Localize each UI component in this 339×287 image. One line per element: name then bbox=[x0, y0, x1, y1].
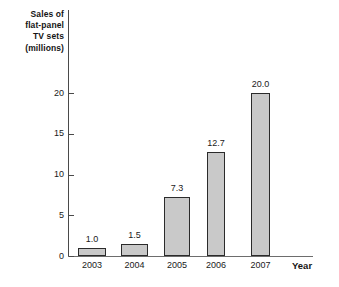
bar[interactable] bbox=[78, 248, 106, 256]
y-axis-tick-label: 20 bbox=[38, 89, 64, 98]
y-axis-title: Sales of flat-panel TV sets (millions) bbox=[2, 9, 64, 54]
y-axis-tick-label: 5 bbox=[38, 211, 64, 220]
y-axis-title-line-2: flat-panel bbox=[2, 20, 64, 31]
y-axis-title-line-4: (millions) bbox=[2, 43, 64, 54]
x-axis-tick-label: 2005 bbox=[154, 261, 200, 270]
x-axis-line bbox=[68, 256, 313, 257]
bar-value-label: 20.0 bbox=[243, 80, 278, 89]
y-axis-tick-label: 15 bbox=[38, 129, 64, 138]
bar-value-label: 1.0 bbox=[70, 235, 114, 244]
x-axis-tick-label: 2003 bbox=[68, 261, 116, 270]
bar-value-label: 12.7 bbox=[199, 139, 233, 148]
x-axis-tick-label: 2007 bbox=[241, 261, 280, 270]
bar-value-label: 1.5 bbox=[113, 231, 156, 240]
bar[interactable] bbox=[207, 152, 225, 256]
x-axis-tick-label: 2006 bbox=[197, 261, 235, 270]
y-axis-title-line-3: TV sets bbox=[2, 31, 64, 42]
y-axis-tick bbox=[69, 215, 74, 216]
y-axis-tick-label: 10 bbox=[38, 170, 64, 179]
bar[interactable] bbox=[251, 93, 270, 256]
y-axis-tick bbox=[69, 93, 74, 94]
y-axis-tick-label: 0 bbox=[38, 252, 64, 261]
y-axis-tick bbox=[69, 134, 74, 135]
bar[interactable] bbox=[121, 244, 148, 256]
bar[interactable] bbox=[164, 197, 190, 256]
x-axis-title: Year bbox=[292, 261, 312, 271]
x-axis-tick-label: 2004 bbox=[111, 261, 158, 270]
y-axis-tick bbox=[69, 175, 74, 176]
bar-chart: Sales of flat-panel TV sets (millions) 0… bbox=[0, 0, 339, 287]
y-axis-title-line-1: Sales of bbox=[2, 9, 64, 20]
y-axis-tick bbox=[69, 256, 74, 257]
bar-value-label: 7.3 bbox=[156, 184, 198, 193]
